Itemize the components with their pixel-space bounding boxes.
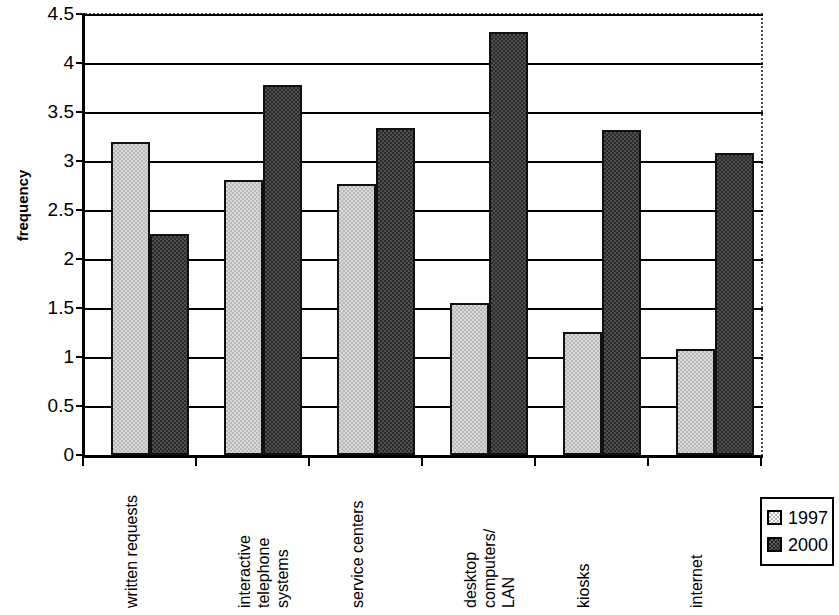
y-axis-tick-label: 0.5 (0, 396, 74, 415)
bar-group (224, 14, 302, 455)
x-axis-category-label-line: telephone (254, 398, 273, 608)
x-axis-category-label: service centers (348, 398, 367, 608)
legend-item-label: 1997 (788, 509, 828, 527)
x-axis-tick-mark (82, 455, 84, 466)
y-axis-tick-label: 2.5 (0, 200, 74, 219)
x-axis-category-label-line: computers/ (480, 398, 499, 608)
x-axis-category-label-line: written requests (122, 398, 141, 608)
bar-2000[interactable] (376, 128, 415, 455)
x-axis-category-label: interactivetelephonesystems (235, 398, 292, 608)
x-axis-tick-mark (760, 455, 762, 466)
bar-group (337, 14, 415, 455)
x-axis-category-label-line: kiosks (574, 398, 593, 608)
x-axis-category-label: written requests (122, 398, 141, 608)
x-axis-category-label: internet (687, 398, 706, 608)
x-axis-tick-mark (195, 455, 197, 466)
x-axis-tick-mark (308, 455, 310, 466)
bar-series-container (85, 14, 763, 455)
y-axis-tick-label: 4.5 (0, 4, 74, 23)
y-axis-tick-label: 0 (0, 445, 74, 464)
y-axis-tick-label: 1 (0, 347, 74, 366)
bar-chart-figure: frequency 00.511.522.533.544.5 written r… (0, 0, 839, 615)
plot-area (82, 14, 763, 458)
bar-2000[interactable] (602, 130, 641, 455)
dark-checker-swatch (767, 537, 782, 552)
x-axis-category-label-line: internet (687, 398, 706, 608)
x-axis-category-label: kiosks (574, 398, 593, 608)
y-axis-tick-label: 3 (0, 151, 74, 170)
light-checker-swatch (767, 510, 782, 525)
bar-group (450, 14, 528, 455)
bar-group (111, 14, 189, 455)
bar-2000[interactable] (150, 234, 189, 455)
bar-group (676, 14, 754, 455)
y-axis-tick-label: 3.5 (0, 102, 74, 121)
chart-legend: 1997 2000 (760, 497, 834, 566)
y-axis-tick-labels: 00.511.522.533.544.5 (0, 0, 74, 470)
x-axis-tick-mark (421, 455, 423, 466)
x-axis-category-label-line: LAN (499, 398, 518, 608)
legend-item-label: 2000 (788, 536, 828, 554)
x-axis-category-label-line: service centers (348, 398, 367, 608)
x-axis-tick-mark (647, 455, 649, 466)
y-axis-tick-label: 4 (0, 53, 74, 72)
bar-2000[interactable] (489, 32, 528, 455)
x-axis-category-label-line: desktop (461, 398, 480, 608)
y-axis-tick-label: 2 (0, 249, 74, 268)
bar-2000[interactable] (715, 153, 754, 455)
legend-item[interactable]: 2000 (767, 531, 828, 558)
x-axis-category-label: desktopcomputers/LAN (461, 398, 518, 608)
y-axis-tick-label: 1.5 (0, 298, 74, 317)
x-axis-category-label-line: interactive (235, 398, 254, 608)
x-axis-tick-mark (534, 455, 536, 466)
legend-item[interactable]: 1997 (767, 504, 828, 531)
bar-group (563, 14, 641, 455)
x-axis-category-label-line: systems (273, 398, 292, 608)
